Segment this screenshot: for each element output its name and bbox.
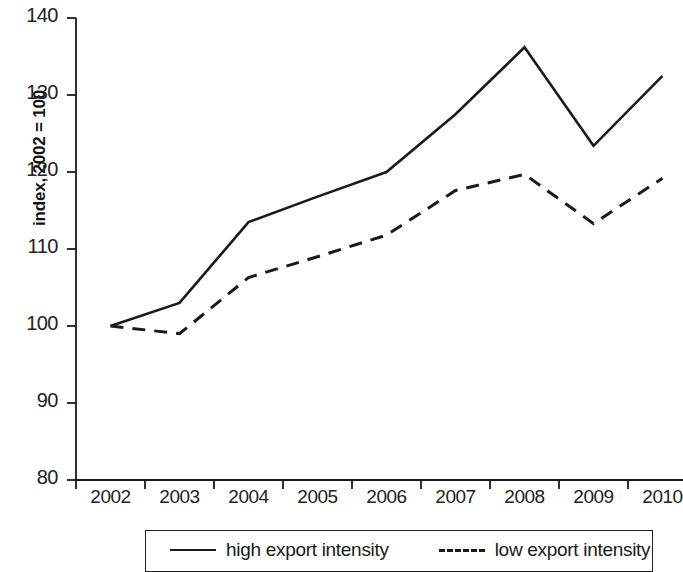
legend-item-low-export-intensity: low export intensity [439,539,651,561]
legend: high export intensity low export intensi… [145,530,653,572]
plot-area [0,0,683,500]
legend-item-high-export-intensity: high export intensity [170,539,389,561]
legend-dashed-line-icon [439,549,485,552]
series-line-high-export-intensity [111,47,663,326]
series-line-low-export-intensity [111,174,663,333]
legend-solid-line-icon [170,549,216,551]
legend-label-low-export-intensity: low export intensity [495,539,651,561]
y-axis-ticks [67,18,76,480]
axes [67,18,683,489]
legend-label-high-export-intensity: high export intensity [226,539,389,561]
x-axis-ticks [76,480,628,489]
